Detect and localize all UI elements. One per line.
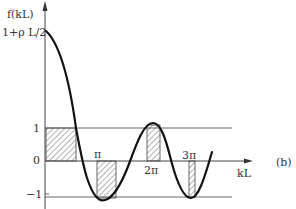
y-axis-label: f(kL) bbox=[7, 8, 34, 21]
allowed-band-2 bbox=[97, 161, 116, 198]
y-tick-label-minus-one: −1 bbox=[26, 188, 42, 201]
y-tick-label-zero: 0 bbox=[33, 154, 40, 167]
dispersion-curve bbox=[46, 31, 212, 200]
x-tick-label-pi: π bbox=[94, 148, 101, 161]
kronig-penney-diagram: f(kL) 1+ρ L/2 1 0 −1 π 2π 3π kL (b) bbox=[0, 0, 296, 209]
y-axis-arrow-icon bbox=[43, 1, 48, 11]
y-tick-label-one: 1 bbox=[33, 122, 40, 135]
x-axis-label: kL bbox=[237, 167, 252, 180]
y-tick-label-max: 1+ρ L/2 bbox=[2, 26, 46, 39]
allowed-band-4 bbox=[189, 161, 195, 197]
x-tick-label-2pi: 2π bbox=[144, 164, 158, 177]
allowed-band-1 bbox=[46, 128, 76, 161]
x-tick-label-3pi: 3π bbox=[182, 149, 196, 162]
x-axis-arrow-icon bbox=[244, 159, 253, 164]
allowed-band-3 bbox=[147, 125, 160, 161]
panel-label: (b) bbox=[276, 156, 292, 169]
